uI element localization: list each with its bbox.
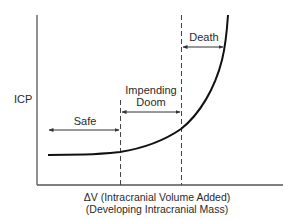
impending-doom-label-line1: Impending bbox=[122, 84, 180, 96]
impending-doom-zone-label: Impending Doom bbox=[122, 84, 180, 108]
x-axis-label: ΔV (Intracranial Volume Added) (Developi… bbox=[72, 191, 242, 215]
impending-doom-label-line2: Doom bbox=[122, 96, 180, 108]
icp-volume-diagram bbox=[0, 0, 295, 219]
y-axis-label: ICP bbox=[14, 93, 32, 105]
safe-zone-label: Safe bbox=[70, 115, 100, 127]
x-axis-label-line1: ΔV (Intracranial Volume Added) bbox=[72, 191, 242, 203]
death-zone-label: Death bbox=[189, 31, 219, 43]
x-axis-label-line2: (Developing Intracranial Mass) bbox=[72, 203, 242, 215]
